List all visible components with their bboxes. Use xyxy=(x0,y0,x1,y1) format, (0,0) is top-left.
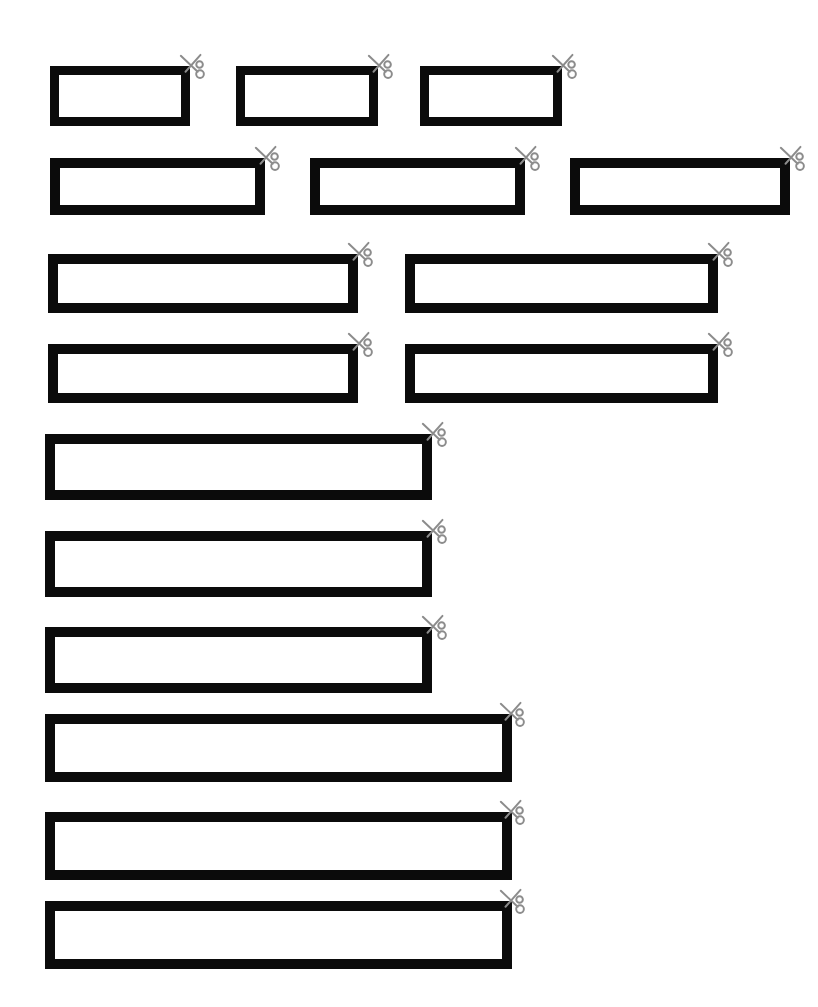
cut-out-strip[interactable] xyxy=(420,66,562,126)
cut-out-strip[interactable] xyxy=(48,254,358,313)
cut-out-strip[interactable] xyxy=(405,344,718,403)
cut-out-strip[interactable] xyxy=(48,344,358,403)
cut-out-strip[interactable] xyxy=(50,66,190,126)
cut-out-strip[interactable] xyxy=(405,254,718,313)
cut-out-strip[interactable] xyxy=(45,434,432,500)
cut-out-strip[interactable] xyxy=(45,901,512,969)
cut-out-strip[interactable] xyxy=(45,812,512,880)
cut-out-strip[interactable] xyxy=(45,531,432,597)
cut-out-strip[interactable] xyxy=(236,66,378,126)
cut-out-strip[interactable] xyxy=(45,627,432,693)
cut-out-strip[interactable] xyxy=(310,158,525,215)
cut-out-strip[interactable] xyxy=(570,158,790,215)
worksheet-page xyxy=(0,0,818,1007)
cut-out-strip[interactable] xyxy=(50,158,265,215)
cut-out-strip[interactable] xyxy=(45,714,512,782)
